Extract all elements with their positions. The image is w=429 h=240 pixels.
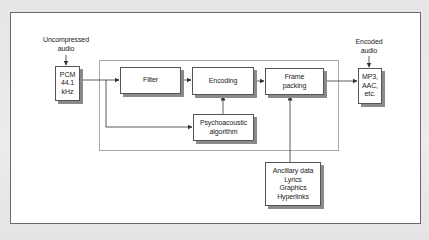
uncompressed-audio-label: Uncompressed audio — [40, 36, 92, 53]
block-text: packing — [283, 82, 306, 91]
block-text: MP3, — [362, 73, 378, 82]
block-text: algorithm — [210, 128, 238, 137]
ancillary-data-block: Ancillary data Lyrics Graphics Hyperlink… — [265, 162, 321, 206]
pcm-block: PCM 44.1 kHz — [55, 66, 80, 101]
block-text: Psychoacoustic — [200, 119, 247, 128]
block-text: Filter — [143, 76, 158, 85]
encoding-block: Encoding — [192, 67, 254, 95]
psychoacoustic-block: Psychoacoustic algorithm — [193, 114, 254, 141]
block-text: etc. — [365, 90, 376, 99]
label-line: audio — [40, 45, 92, 54]
block-text: Lyrics — [284, 176, 301, 185]
block-text: kHz — [62, 88, 74, 97]
block-text: Frame — [285, 73, 305, 82]
output-format-block: MP3, AAC, etc. — [358, 68, 382, 104]
block-text: Hyperlinks — [277, 193, 309, 202]
block-text: PCM — [60, 71, 75, 80]
filter-block: Filter — [120, 67, 181, 94]
block-text: Ancillary data — [273, 167, 314, 176]
block-text: Graphics — [279, 184, 306, 193]
label-line: Uncompressed — [40, 36, 92, 45]
label-line: audio — [350, 47, 388, 56]
encoded-audio-label: Encoded audio — [350, 38, 388, 55]
block-text: 44.1 — [61, 79, 74, 88]
label-line: Encoded — [350, 38, 388, 47]
block-text: AAC, — [362, 82, 378, 91]
block-text: Encoding — [209, 77, 237, 86]
frame-packing-block: Frame packing — [265, 68, 324, 95]
